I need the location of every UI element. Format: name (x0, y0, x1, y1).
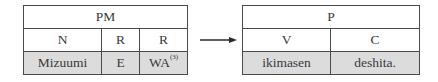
left-header-cell: PM (24, 6, 188, 29)
footnote-marker: (3) (170, 53, 178, 61)
arrow-right-icon (200, 36, 238, 44)
right-structure-table: P V C ikimasen deshita. (242, 5, 420, 75)
right-header-cell: P (243, 6, 420, 29)
category-cell: R (140, 29, 188, 52)
word-cell: deshita. (331, 52, 420, 75)
category-cell: C (331, 29, 420, 52)
category-cell: V (243, 29, 331, 52)
category-cell: N (24, 29, 102, 52)
category-cell: R (102, 29, 140, 52)
word-cell: E (102, 52, 140, 75)
word-cell: Mizuumi (24, 52, 102, 75)
word-cell-with-footnote: WA(3) (140, 52, 188, 75)
word-text: WA (149, 55, 170, 70)
left-structure-table: PM N R R Mizuumi E WA(3) (23, 5, 188, 75)
word-cell: ikimasen (243, 52, 331, 75)
